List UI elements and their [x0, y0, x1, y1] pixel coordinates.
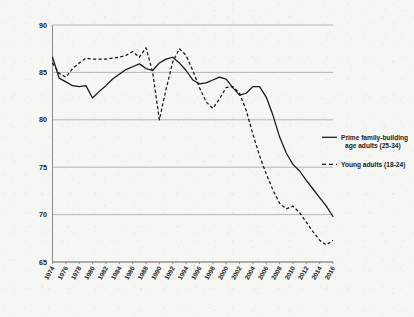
x-tick-label-2004: 2004 [243, 265, 256, 281]
x-tick-label-1988: 1988 [136, 265, 149, 281]
series-line-young-adults [53, 48, 334, 245]
x-tick-label-1996: 1996 [190, 265, 203, 281]
x-tick-label-1994: 1994 [176, 265, 189, 281]
x-tick-label-2002: 2002 [230, 265, 243, 281]
x-tick-label-1978: 1978 [69, 265, 82, 281]
x-axis-tick-labels: 1974197619781980198219841986198819901992… [43, 262, 337, 281]
y-tick-label-70: 70 [39, 210, 47, 219]
x-tick-label-1974: 1974 [43, 265, 56, 281]
y-tick-label-80: 80 [39, 115, 47, 124]
y-axis-tick-labels: 657075808590 [39, 21, 47, 267]
x-tick-label-2008: 2008 [270, 265, 283, 281]
x-tick-label-1982: 1982 [96, 265, 109, 281]
x-tick-label-1992: 1992 [163, 265, 176, 281]
y-tick-label-90: 90 [39, 21, 47, 30]
y-tick-label-85: 85 [39, 68, 47, 77]
series-line-prime-family-building-adults [53, 57, 334, 216]
x-tick-label-2006: 2006 [256, 265, 269, 281]
legend-label-prime-family-building-line1: Prime family-building [341, 134, 408, 142]
chart-canvas: 657075808590 197419761978198019821984198… [0, 0, 414, 317]
x-tick-label-2014: 2014 [310, 265, 323, 281]
x-tick-label-1976: 1976 [56, 265, 69, 281]
chart-legend: Prime family-buildingage adults (25-34)Y… [322, 134, 408, 169]
x-tick-label-1990: 1990 [149, 265, 162, 281]
x-tick-label-1986: 1986 [123, 265, 136, 281]
x-tick-label-2016: 2016 [323, 265, 336, 281]
x-tick-label-1998: 1998 [203, 265, 216, 281]
legend-label-prime-family-building-line2: age adults (25-34) [345, 142, 401, 150]
x-tick-label-2010: 2010 [283, 265, 296, 281]
x-tick-label-2000: 2000 [216, 265, 229, 281]
x-tick-label-1980: 1980 [83, 265, 96, 281]
x-tick-label-1984: 1984 [109, 265, 122, 281]
line-chart: 657075808590 197419761978198019821984198… [0, 0, 414, 317]
gridlines [53, 25, 334, 262]
y-tick-label-65: 65 [39, 258, 47, 267]
y-tick-label-75: 75 [39, 163, 47, 172]
x-tick-label-2012: 2012 [296, 265, 309, 281]
data-series [53, 48, 334, 245]
legend-label-young-adults: Young adults (18-24) [341, 161, 405, 169]
axes [53, 25, 334, 262]
